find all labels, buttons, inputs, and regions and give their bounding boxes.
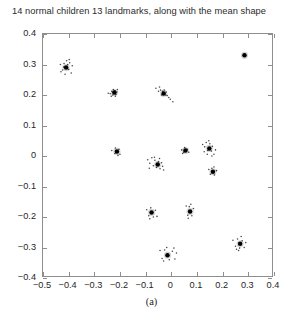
- landmark-point: [149, 218, 151, 220]
- landmark-point: [205, 142, 207, 144]
- mean-landmark-point: [165, 253, 170, 258]
- x-tick-mark: [223, 272, 224, 276]
- y-tick-mark: [43, 65, 47, 66]
- x-tick-mark: [274, 272, 275, 276]
- landmark-point: [155, 210, 157, 212]
- x-tick-label: 0.4: [267, 280, 280, 290]
- x-tick-mark: [171, 272, 172, 276]
- landmark-point: [190, 203, 192, 205]
- landmark-point: [191, 215, 193, 217]
- x-tick-mark: [43, 272, 44, 276]
- landmark-point: [208, 169, 210, 171]
- mean-landmark-point: [149, 210, 154, 215]
- landmark-point: [159, 86, 161, 88]
- figure-caption: (a): [0, 296, 303, 307]
- landmark-point: [155, 88, 157, 90]
- landmark-point: [209, 143, 211, 145]
- landmark-point: [239, 247, 241, 249]
- landmark-point: [60, 71, 62, 73]
- y-tick-mark: [43, 187, 47, 188]
- landmark-point: [148, 215, 150, 217]
- x-tick-mark: [146, 272, 147, 276]
- landmark-point: [243, 247, 245, 249]
- mean-landmark-point: [238, 242, 243, 247]
- landmark-point: [148, 167, 150, 169]
- x-tick-mark: [69, 272, 70, 276]
- landmark-point: [109, 93, 111, 95]
- landmark-point: [176, 252, 178, 254]
- landmark-point: [151, 157, 153, 159]
- y-tick-label: 0.2: [2, 89, 36, 99]
- landmark-point: [203, 151, 205, 153]
- y-tick-label: 0.3: [2, 59, 36, 69]
- landmark-point: [159, 168, 161, 170]
- landmark-point: [193, 208, 195, 210]
- landmark-point: [172, 101, 174, 103]
- landmark-point: [232, 239, 234, 241]
- landmark-point: [236, 249, 238, 251]
- landmark-point: [166, 247, 168, 249]
- landmark-point: [110, 95, 112, 97]
- landmark-point: [174, 258, 176, 260]
- mean-landmark-point: [183, 148, 188, 153]
- landmark-point: [245, 242, 247, 244]
- landmark-point: [107, 92, 109, 94]
- landmark-point: [208, 140, 210, 142]
- landmark-point: [185, 205, 187, 207]
- landmark-point: [168, 97, 170, 99]
- x-tick-mark: [69, 34, 70, 38]
- landmark-point: [164, 249, 166, 251]
- x-tick-mark: [94, 272, 95, 276]
- x-tick-mark: [146, 34, 147, 38]
- mean-landmark-point: [64, 65, 69, 70]
- landmark-point: [173, 247, 175, 249]
- landmark-point: [204, 146, 206, 148]
- landmark-point: [240, 236, 242, 238]
- x-tick-mark: [94, 34, 95, 38]
- y-tick-mark: [43, 217, 47, 218]
- landmark-point: [153, 165, 155, 167]
- y-tick-label: 0.1: [2, 120, 36, 130]
- landmark-point: [156, 216, 158, 218]
- landmark-point: [172, 250, 174, 252]
- landmark-point: [150, 207, 152, 209]
- y-tick-mark: [268, 187, 272, 188]
- landmark-point: [170, 98, 172, 100]
- landmark-point: [211, 155, 213, 157]
- landmark-point: [147, 159, 149, 161]
- mean-landmark-point: [115, 149, 120, 154]
- y-tick-mark: [268, 217, 272, 218]
- y-tick-mark: [43, 278, 47, 279]
- x-tick-mark: [274, 34, 275, 38]
- landmark-point: [160, 89, 162, 91]
- x-tick-mark: [197, 34, 198, 38]
- x-tick-label: 0.2: [215, 280, 228, 290]
- x-tick-mark: [248, 272, 249, 276]
- landmark-point: [215, 149, 217, 151]
- plot-title: 14 normal children 13 landmarks, along w…: [12, 6, 302, 17]
- landmark-point: [238, 250, 240, 252]
- landmark-point: [202, 144, 204, 146]
- y-tick-mark: [268, 156, 272, 157]
- x-tick-label: −0.4: [59, 280, 77, 290]
- scatter-points-layer: [43, 34, 272, 276]
- landmark-point: [60, 64, 62, 66]
- y-tick-label: −0.1: [2, 181, 36, 191]
- y-tick-mark: [268, 248, 272, 249]
- landmark-point: [213, 153, 215, 155]
- landmark-point: [163, 169, 165, 171]
- mean-landmark-point: [188, 209, 193, 214]
- landmark-point: [70, 72, 72, 74]
- landmark-point: [169, 259, 171, 261]
- landmark-point: [213, 166, 215, 168]
- landmark-point: [153, 216, 155, 218]
- y-tick-mark: [43, 34, 47, 35]
- plot-area: [43, 34, 272, 276]
- figure-container: 14 normal children 13 landmarks, along w…: [0, 0, 303, 320]
- y-tick-mark: [43, 126, 47, 127]
- landmark-point: [71, 65, 73, 67]
- landmark-point: [154, 159, 156, 161]
- landmark-point: [111, 150, 113, 152]
- y-tick-mark: [43, 95, 47, 96]
- y-tick-label: 0: [2, 150, 36, 160]
